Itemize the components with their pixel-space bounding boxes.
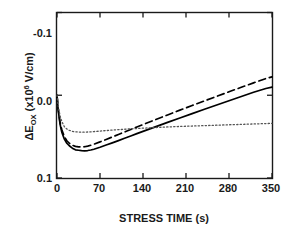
x-tick-label: 350 bbox=[256, 182, 286, 194]
y-axis-label-sup: 6 bbox=[22, 85, 31, 89]
chart-figure: -0.1 0.0 0.1 0 70 140 210 280 350 STRESS… bbox=[0, 0, 291, 235]
x-tick-label: 70 bbox=[84, 182, 114, 194]
x-tick-label: 280 bbox=[213, 182, 243, 194]
x-axis-label: STRESS TIME (s) bbox=[55, 212, 273, 224]
x-tick-label: 0 bbox=[42, 182, 72, 194]
y-axis-label: ΔEOX (x106 V/cm) bbox=[22, 11, 39, 181]
plot-frame bbox=[57, 13, 273, 179]
x-tick-label: 210 bbox=[170, 182, 200, 194]
y-axis-ticks bbox=[57, 13, 272, 179]
y-axis-label-mid: (x10 bbox=[23, 89, 35, 114]
y-axis-label-tail: V/cm) bbox=[23, 52, 35, 85]
curve-dashed bbox=[57, 77, 272, 147]
curve-dotted bbox=[57, 95, 272, 132]
curve-solid bbox=[57, 87, 272, 151]
data-curves bbox=[57, 77, 272, 151]
x-axis-ticks bbox=[57, 13, 272, 179]
y-axis-label-delta: ΔE bbox=[23, 125, 35, 140]
x-tick-label: 140 bbox=[127, 182, 157, 194]
y-axis-label-sub: OX bbox=[29, 115, 38, 126]
